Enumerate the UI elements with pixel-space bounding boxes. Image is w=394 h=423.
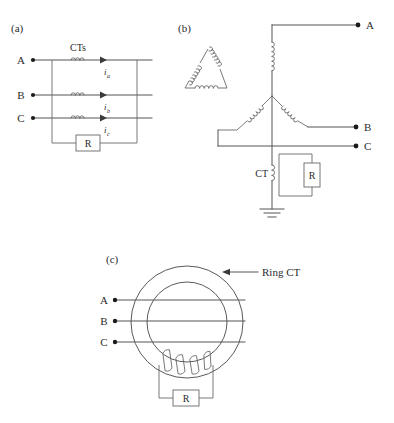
panel-b-terminal-a-dot [356, 23, 361, 28]
panel-c: (c) Ring CT A B C [100, 253, 300, 406]
panel-a-phase-c: C i c [17, 112, 152, 137]
panel-a-label: (a) [11, 22, 24, 35]
panel-b-resistor-label: R [309, 170, 316, 181]
panel-c-phase-label-a: A [100, 294, 108, 306]
panel-a-resistor: R [76, 135, 100, 151]
panel-c-resistor-label: R [183, 393, 190, 404]
panel-c-terminal-c-dot [113, 340, 117, 344]
panel-c-ring-outer-circle [131, 266, 243, 378]
panel-b-phase-b: B [308, 121, 371, 133]
panel-b-wye-winding [218, 96, 308, 146]
panel-c-ring-ct-annotation: Ring CT [222, 266, 300, 278]
panel-b-phase-a: A [272, 19, 374, 96]
panel-a-current-arrow-b [100, 92, 107, 99]
panel-c-ring-inner-circle [147, 282, 227, 362]
panel-a-current-sub-c: c [107, 131, 110, 137]
panel-a-terminal-a-dot [31, 58, 35, 62]
panel-c-label: (c) [106, 253, 119, 266]
panel-a-phase-b: B i b [17, 89, 152, 114]
panel-b-ground-icon [260, 209, 284, 217]
panel-c-terminal-a-dot [113, 298, 117, 302]
panel-a-current-sub-a: a [107, 73, 110, 79]
panel-a-current-sub-b: b [107, 108, 110, 114]
panel-b-terminal-b-dot [354, 125, 359, 130]
panel-a-summation-loop [52, 60, 137, 143]
figure-root: (a) CTs A i a B i b C [0, 0, 394, 423]
panel-a-current-arrow-a [100, 57, 107, 64]
circuit-diagram-svg: (a) CTs A i a B i b C [0, 0, 394, 423]
panel-b-terminal-label-b: B [364, 121, 371, 133]
panel-b-phase-c: C [218, 140, 371, 152]
panel-b-terminal-label-c: C [364, 140, 371, 152]
panel-a-terminal-c-dot [31, 116, 35, 120]
panel-a-phase-label-c: C [17, 112, 24, 124]
panel-b: (b) A [178, 19, 374, 217]
panel-b-label: (b) [178, 22, 191, 35]
panel-c-phase-label-c: C [100, 336, 107, 348]
panel-a-resistor-label: R [85, 138, 92, 149]
panel-b-delta-winding [185, 47, 227, 88]
panel-a-phase-a: A i a [17, 54, 152, 79]
panel-c-ring-ct-label: Ring CT [262, 266, 300, 278]
panel-c-terminal-b-dot [113, 319, 117, 323]
panel-c-phase-b: B [100, 315, 245, 327]
panel-c-phase-label-b: B [100, 315, 107, 327]
panel-b-terminal-c-dot [354, 144, 359, 149]
panel-b-ct-label: CT [255, 168, 268, 179]
panel-a-phase-label-a: A [17, 54, 25, 66]
panel-b-terminal-label-a: A [366, 19, 374, 31]
panel-a-phase-label-b: B [17, 89, 24, 101]
panel-c-ring-ct-arrowhead [222, 269, 230, 275]
panel-a: (a) CTs A i a B i b C [11, 22, 152, 151]
panel-a-cts-label: CTs [70, 42, 86, 53]
panel-a-current-arrow-c [100, 115, 107, 122]
panel-a-terminal-b-dot [31, 93, 35, 97]
